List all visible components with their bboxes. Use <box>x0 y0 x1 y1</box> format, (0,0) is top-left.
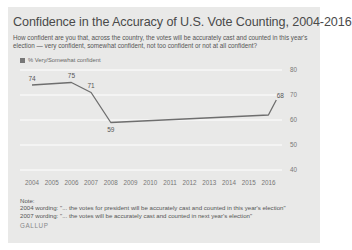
x-tick-label: 2012 <box>183 179 198 186</box>
x-tick-label: 2008 <box>104 179 119 186</box>
data-label: 59 <box>107 126 115 133</box>
note-2004: 2004 wording: "... the votes for preside… <box>20 204 286 211</box>
note-2007: 2007 wording: "... the votes will be acc… <box>20 212 286 219</box>
y-tick-label: 40 <box>290 166 298 173</box>
notes: Note: 2004 wording: "... the votes for p… <box>20 197 286 219</box>
x-tick-label: 2011 <box>163 179 177 186</box>
y-tick-label: 70 <box>290 91 298 98</box>
x-tick-label: 2016 <box>261 179 276 186</box>
x-tick-label: 2006 <box>64 179 79 186</box>
data-label: 75 <box>68 72 76 79</box>
data-label: 74 <box>28 75 36 82</box>
data-label: 71 <box>87 82 95 89</box>
x-tick-label: 2007 <box>84 179 99 186</box>
data-label: 68 <box>277 92 285 99</box>
note-heading: Note: <box>20 197 286 204</box>
series-line <box>32 83 276 123</box>
y-tick-label: 80 <box>290 66 298 73</box>
x-tick-label: 2010 <box>143 179 158 186</box>
x-tick-label: 2014 <box>222 179 237 186</box>
x-tick-label: 2004 <box>25 179 40 186</box>
x-tick-label: 2013 <box>202 179 217 186</box>
x-tick-label: 2005 <box>45 179 60 186</box>
x-tick-label: 2009 <box>123 179 138 186</box>
source-logo: GALLUP <box>20 222 48 229</box>
x-tick-label: 2015 <box>242 179 257 186</box>
y-tick-label: 50 <box>290 141 298 148</box>
y-tick-label: 60 <box>290 116 298 123</box>
